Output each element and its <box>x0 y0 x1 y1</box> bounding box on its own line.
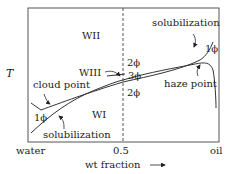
solubilization-bottom-label: solubilization <box>43 130 111 140</box>
region-wi-label: WI <box>92 110 106 120</box>
cloud-point-label: cloud point <box>33 80 90 90</box>
y-axis-label: T <box>6 68 13 79</box>
region-wiii-label: WIII <box>79 68 101 78</box>
three-phase-label: 3ϕ <box>128 71 141 81</box>
wiii-line <box>107 74 125 76</box>
cloud-point-arrow-icon <box>44 94 50 104</box>
two-phase-top-label: 2ϕ <box>127 58 140 68</box>
solubilization-top-label: solubilization <box>152 18 220 28</box>
x-axis-left-label: water <box>16 146 45 156</box>
haze-point-arrow-icon <box>197 65 200 76</box>
solubilization-bottom-arrow-icon <box>59 116 64 129</box>
x-axis-mid-label: 0.5 <box>113 146 129 156</box>
region-wii-label: WII <box>82 31 100 41</box>
two-phase-bottom-label: 2ϕ <box>127 88 140 98</box>
x-axis-label: wt fraction <box>85 160 140 170</box>
haze-point-label: haze point <box>164 79 217 89</box>
one-phase-right-label: 1ϕ <box>205 44 218 54</box>
solubilization-top-arrow-icon <box>193 34 195 47</box>
x-axis-right-label: oil <box>210 146 222 156</box>
one-phase-left-label: 1ϕ <box>34 113 47 123</box>
upper-boundary-curve <box>31 42 213 110</box>
